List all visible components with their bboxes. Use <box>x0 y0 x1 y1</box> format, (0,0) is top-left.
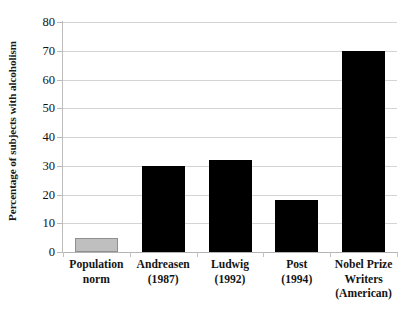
y-axis-tick-mark <box>57 195 63 196</box>
y-axis-tick-mark <box>57 51 63 52</box>
bar <box>142 166 185 252</box>
x-axis-label-line: (American) <box>330 287 397 302</box>
x-axis-label-line: Nobel Prize <box>330 258 397 273</box>
x-axis-label-line: norm <box>63 273 130 288</box>
bar <box>209 160 252 252</box>
x-axis-tick-mark <box>330 252 331 257</box>
x-axis-label-line: Andreasen <box>130 258 197 273</box>
x-axis-tick-mark <box>397 252 398 257</box>
x-axis-category-label: Andreasen(1987) <box>130 258 197 287</box>
y-axis-tick-mark <box>57 166 63 167</box>
y-axis-tick-mark <box>57 22 63 23</box>
x-axis-tick-mark <box>197 252 198 257</box>
x-axis-tick-mark <box>263 252 264 257</box>
x-axis-label-line: (1992) <box>197 273 264 288</box>
x-axis-label-line: (1994) <box>263 273 330 288</box>
x-axis-label-line: Writers <box>330 273 397 288</box>
x-axis-category-label: Ludwig(1992) <box>197 258 264 287</box>
y-axis-tick-mark <box>57 137 63 138</box>
y-axis-tick-mark <box>57 223 63 224</box>
x-axis-tick-mark <box>130 252 131 257</box>
x-axis-category-label: Populationnorm <box>63 258 130 287</box>
x-axis-label-line: Ludwig <box>197 258 264 273</box>
x-axis-tick-mark <box>63 252 64 257</box>
x-axis-label-line: Post <box>263 258 330 273</box>
x-axis-category-label: Post(1994) <box>263 258 330 287</box>
x-axis-label-line: Population <box>63 258 130 273</box>
x-axis-category-label: Nobel PrizeWriters(American) <box>330 258 397 302</box>
bar-chart-figure: Percentage of subjects with alcoholism 8… <box>0 0 410 315</box>
bar <box>342 51 385 252</box>
x-axis-label-line: (1987) <box>130 273 197 288</box>
bar <box>275 200 318 252</box>
y-axis-tick-mark <box>57 80 63 81</box>
y-axis-tick-mark <box>57 108 63 109</box>
x-axis-category-labels: PopulationnormAndreasen(1987)Ludwig(1992… <box>63 258 403 315</box>
bar <box>75 238 118 252</box>
